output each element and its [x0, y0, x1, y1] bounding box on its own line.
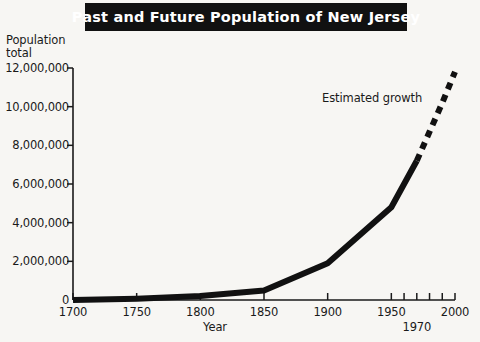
series-line-estimated — [417, 72, 455, 161]
plot-area — [0, 0, 480, 342]
series-line-recorded — [73, 161, 417, 300]
chart-figure: Past and Future Population of New Jersey… — [0, 0, 480, 342]
axes-lines — [67, 68, 455, 300]
data-series — [73, 72, 455, 300]
